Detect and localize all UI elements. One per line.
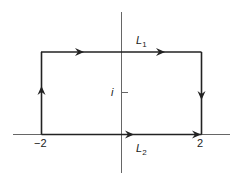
label-i: i xyxy=(111,86,114,98)
diagram-canvas: L1 L2 i −2 2 xyxy=(0,0,242,183)
label-minus-two: −2 xyxy=(34,137,47,149)
label-two: 2 xyxy=(197,137,203,149)
label-L1: L1 xyxy=(136,34,147,49)
label-L2: L2 xyxy=(136,142,147,157)
contour-diagram: L1 L2 i −2 2 xyxy=(0,0,242,183)
